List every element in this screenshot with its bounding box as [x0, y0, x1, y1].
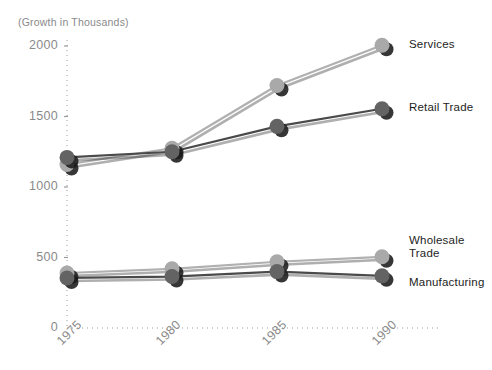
- chart-plot-area: [0, 0, 492, 370]
- chart-container: (Growth in Thousands) 2000 1500 1000 500…: [0, 0, 492, 370]
- series-markers: [60, 38, 394, 289]
- series-lines: [67, 45, 385, 281]
